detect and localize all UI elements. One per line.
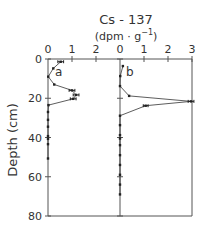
y-tick-label: 60	[28, 171, 42, 184]
data-point	[47, 143, 49, 145]
data-point	[119, 193, 121, 195]
data-point	[119, 183, 121, 185]
x-tick-label: 2	[165, 43, 172, 56]
y-tick-label: 0	[35, 53, 42, 66]
data-point	[122, 65, 124, 67]
data-point	[119, 154, 121, 156]
data-point	[72, 98, 74, 100]
data-point	[128, 95, 130, 97]
panel-label-b: b	[126, 65, 134, 79]
x-tick-label: 1	[141, 43, 148, 56]
x-tick-label: 1	[69, 43, 76, 56]
data-point	[47, 104, 49, 106]
data-point	[119, 137, 121, 139]
data-point	[119, 85, 121, 87]
data-point	[47, 126, 49, 128]
profile-line-b	[120, 66, 191, 194]
y-tick-label: 20	[28, 92, 42, 105]
data-point	[47, 157, 49, 159]
data-point	[144, 105, 146, 107]
y-tick-label: 80	[28, 210, 42, 223]
data-point	[71, 89, 73, 91]
data-point	[47, 119, 49, 121]
x-tick-label: 2	[93, 43, 100, 56]
data-point	[119, 124, 121, 126]
data-point	[119, 164, 121, 166]
cs137-depth-profile-chart: Cs - 137 (dpm · g−1) Depth (cm) 02040608…	[0, 0, 203, 231]
data-point	[47, 138, 49, 140]
y-axis-label: Depth (cm)	[5, 103, 20, 177]
data-point	[119, 144, 121, 146]
data-point	[75, 94, 77, 96]
chart-subtitle: (dpm · g−1)	[95, 28, 158, 43]
data-point	[47, 135, 49, 137]
plot-area: 020406080012a0123b	[28, 43, 196, 223]
chart-title: Cs - 137	[99, 12, 153, 27]
x-tick-label: 0	[45, 43, 52, 56]
panel-label-a: a	[55, 65, 62, 79]
data-point	[60, 61, 62, 63]
data-point	[119, 174, 121, 176]
data-point	[47, 75, 49, 77]
data-point	[119, 75, 121, 77]
y-tick-label: 40	[28, 132, 42, 145]
data-point	[119, 115, 121, 117]
data-point	[119, 134, 121, 136]
data-point	[190, 100, 192, 102]
data-point	[53, 83, 55, 85]
x-tick-label: 0	[117, 43, 124, 56]
data-point	[52, 67, 54, 69]
data-point	[47, 111, 49, 113]
x-tick-label: 3	[189, 43, 196, 56]
